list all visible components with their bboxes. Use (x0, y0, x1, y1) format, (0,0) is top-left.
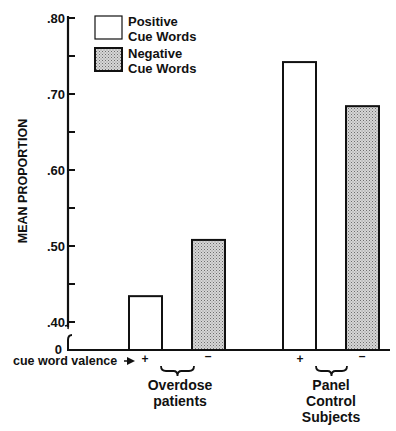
legend-swatch-positive (95, 16, 122, 39)
x-axis-labels: cue word valence+–+–OverdosepatientsPane… (13, 349, 366, 425)
y-tick-label: .40 (47, 315, 65, 330)
axis-break-mark (68, 335, 72, 350)
legend-label: Cue Words (128, 29, 196, 44)
bar-positive-control (283, 62, 316, 350)
bar-negative-overdose (192, 240, 225, 350)
legend-label: Negative (128, 46, 182, 61)
legend-label: Cue Words (128, 61, 196, 76)
y-tick-label: .50 (47, 239, 65, 254)
bars (129, 62, 379, 350)
category-label-overdose: Overdose (148, 377, 213, 393)
y-tick-label: .70 (47, 87, 65, 102)
category-label-overdose: patients (153, 393, 207, 409)
legend-label: Positive (128, 14, 178, 29)
y-axis-ticks: .80.70.60.50.40 (47, 11, 75, 330)
valence-positive-mark: + (141, 352, 148, 366)
category-label-control: Control (306, 393, 356, 409)
y-tick-label: .80 (47, 11, 65, 26)
group-brace (316, 366, 347, 376)
bar-positive-overdose (129, 296, 162, 350)
legend-swatch-negative (95, 48, 122, 71)
y-axis-title: MEAN PROPORTION (16, 119, 30, 243)
category-label-control: Panel (312, 377, 349, 393)
x-axis-title: cue word valence (13, 354, 117, 368)
valence-negative-mark: – (359, 349, 366, 363)
legend: PositiveCue WordsNegativeCue Words (95, 14, 196, 76)
axis-break-mark (65, 325, 68, 329)
y-tick-label: .60 (47, 163, 65, 178)
category-label-control: Subjects (302, 409, 361, 425)
valence-negative-mark: – (205, 349, 212, 363)
bar-negative-control (346, 106, 379, 350)
group-brace (161, 366, 194, 376)
bar-chart: MEAN PROPORTION 0 .80.70.60.50.40 Positi… (0, 0, 396, 431)
valence-positive-mark: + (296, 352, 303, 366)
